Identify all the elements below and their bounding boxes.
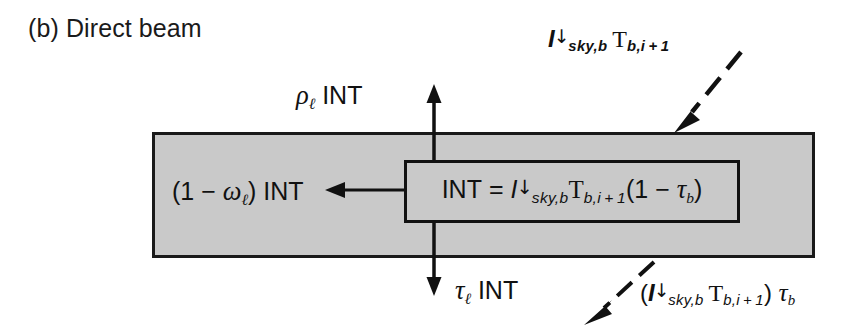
equation-tau-subscript: b [686, 189, 694, 206]
equation-sub-sky: sky,b [532, 189, 569, 206]
label-transmitted-beam: (I↓sky,bTb,i + 1) τb [640, 280, 795, 308]
label-incoming-beam: I↓sky,bTb,i + 1 [548, 27, 669, 54]
label-reflected-up: ρℓ INT [296, 82, 362, 111]
equation-box: INT=I↓sky,bTb,i + 1(1 − τb) [404, 160, 740, 223]
label-absorbed-left: (1 − ωℓ) INT [172, 178, 303, 207]
figure-direct-beam: (b) Direct beam ρℓ INT (1 − ωℓ) INT τℓ I… [0, 0, 859, 335]
equation-tau-symbol: τ [677, 174, 687, 204]
equation-group-open: (1 − [626, 175, 677, 203]
down-arrow-glyph: ↓ [517, 176, 532, 199]
incoming-sub-layer: b,i + 1 [627, 38, 669, 54]
equation-sub-layer: b,i + 1 [584, 189, 626, 206]
transmitted-sub-sky: sky,b [668, 292, 703, 308]
transmitted-sub-layer: b,i + 1 [723, 292, 764, 308]
equation-lhs: INT [442, 175, 482, 203]
tau-b-subscript: b [788, 292, 795, 308]
equation-equals: = [489, 175, 504, 203]
incoming-dashed-arrow [674, 52, 741, 133]
rho-term: INT [315, 81, 362, 109]
down-arrow-glyph: ↓ [554, 26, 569, 47]
tau-term: INT [471, 276, 518, 304]
down-arrow-glyph: ↓ [654, 280, 669, 301]
panel-caption: (b) Direct beam [28, 14, 202, 43]
omega-symbol: ω [223, 176, 242, 206]
transmitted-open-paren: ( [640, 279, 648, 306]
tau-b-symbol: τ [779, 278, 788, 307]
absorbed-prefix: (1 − [172, 177, 223, 205]
label-transmitted-down: τℓ INT [455, 277, 518, 306]
equation-group-close: ) [694, 175, 702, 203]
rho-symbol: ρ [296, 80, 309, 110]
equation-text: INT=I↓sky,bTb,i + 1(1 − τb) [442, 176, 703, 207]
incoming-sub-sky: sky,b [568, 38, 607, 54]
transmitted-close-paren: ) [764, 279, 779, 306]
transmitted-T-symbol: T [708, 280, 723, 306]
equation-T-symbol: T [568, 176, 583, 203]
absorbed-suffix: ) INT [248, 177, 304, 205]
incoming-T-symbol: T [612, 26, 627, 52]
tau-symbol: τ [455, 275, 465, 305]
